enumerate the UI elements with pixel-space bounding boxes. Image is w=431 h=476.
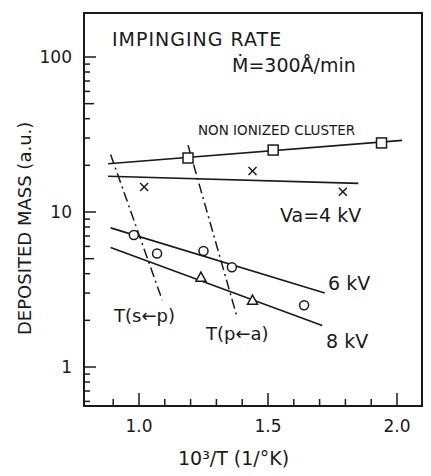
label-va-4kv: Va=4 kV [280,204,361,226]
chart-title: IMPINGING RATE [112,28,282,50]
square-marker [268,145,278,155]
label-nonionized-cluster: NON IONIZED CLUSTER [198,122,355,138]
circle-marker [129,231,138,240]
circle-marker [300,301,309,310]
x-tick-label: 1.0 [125,416,152,436]
x-marker [339,188,347,196]
triangle-marker [196,272,206,281]
impinging-rate-value: Ṁ=300Å/min [232,54,356,76]
fit-line [108,140,402,163]
y-tick-label: 10 [50,202,72,222]
triangle-marker [248,295,258,304]
x-axis-label: 10³/T (1/°K) [178,447,289,469]
x-marker [249,167,257,175]
label-8kv: 8 kV [326,330,368,352]
fit-line [111,228,325,293]
label-6kv: 6 kV [328,272,370,294]
label-t-p-a: T(p←a) [205,323,269,344]
y-tick-label: 1 [61,357,72,377]
label-t-s-p: T(s←p) [113,305,175,326]
square-marker [377,138,387,148]
y-axis-label: DEPOSITED MASS (a.u.) [14,122,35,335]
circle-marker [153,249,162,258]
circle-marker [227,263,236,272]
square-marker [183,153,193,163]
deposited-mass-chart: IMPINGING RATE Ṁ=300Å/min NON IONIZED CL… [0,0,431,476]
y-tick-label: 100 [40,47,72,67]
x-marker [140,183,148,191]
fit-line [108,176,358,183]
x-tick-label: 2.0 [383,416,410,436]
tick-labels: 1.01.52.0110100 [40,47,411,436]
circle-marker [199,247,208,256]
x-tick-label: 1.5 [254,416,281,436]
